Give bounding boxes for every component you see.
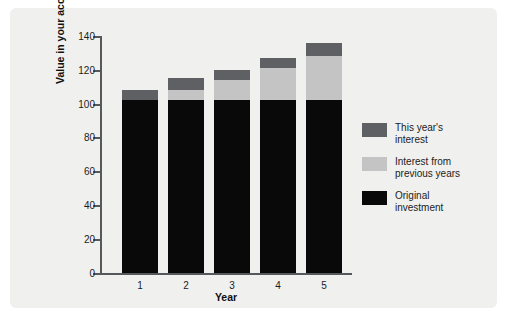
- bar-segment-this-years-interest: [260, 58, 296, 68]
- legend-swatch-icon: [362, 123, 387, 137]
- bar-year-1: [122, 90, 158, 273]
- bar-segment-original-investment: [214, 100, 250, 273]
- y-tick-label: 100: [78, 99, 95, 110]
- y-tick-label: 20: [84, 234, 95, 245]
- bar-segment-previous-interest: [214, 80, 250, 100]
- legend-item-original-investment: Original investment: [362, 190, 492, 213]
- bar-segment-previous-interest: [260, 68, 296, 100]
- y-tick-label: 140: [78, 31, 95, 42]
- bar-segment-this-years-interest: [214, 70, 250, 80]
- y-tick-label: 60: [84, 166, 95, 177]
- x-tick-label-4: 4: [260, 280, 296, 291]
- x-tick-label-2: 2: [168, 280, 204, 291]
- x-tick-label-3: 3: [214, 280, 250, 291]
- plot-area: 0 20 40 60 80 100 120 140: [100, 28, 350, 273]
- bar-segment-this-years-interest: [122, 90, 158, 100]
- x-tick-label-5: 5: [306, 280, 342, 291]
- bar-year-3: [214, 70, 250, 273]
- y-axis-line: [100, 36, 102, 273]
- legend-swatch-icon: [362, 191, 387, 205]
- bar-year-5: [306, 43, 342, 273]
- legend-item-previous-interest: Interest from previous years: [362, 156, 492, 179]
- chart-legend: This year's interest Interest from previ…: [362, 122, 492, 224]
- bar-segment-original-investment: [306, 100, 342, 273]
- y-tick-label: 80: [84, 132, 95, 143]
- x-tick-label-1: 1: [122, 280, 158, 291]
- legend-swatch-icon: [362, 157, 387, 171]
- bar-year-4: [260, 58, 296, 273]
- bar-segment-original-investment: [122, 100, 158, 273]
- y-axis-title-holder: Value in your account, dollars: [62, 28, 78, 273]
- y-axis-title: Value in your account, dollars: [54, 0, 66, 84]
- bar-segment-this-years-interest: [306, 43, 342, 57]
- legend-label: Interest from previous years: [395, 156, 460, 179]
- bar-segment-original-investment: [260, 100, 296, 273]
- y-tick-label: 0: [89, 268, 95, 279]
- bar-segment-previous-interest: [306, 56, 342, 100]
- y-tick-label: 120: [78, 65, 95, 76]
- y-tick-label: 40: [84, 200, 95, 211]
- bar-year-2: [168, 78, 204, 273]
- x-axis-title: Year: [100, 291, 352, 303]
- legend-item-this-years-interest: This year's interest: [362, 122, 492, 145]
- legend-label: This year's interest: [395, 122, 443, 145]
- bar-segment-original-investment: [168, 100, 204, 273]
- bar-segment-previous-interest: [168, 90, 204, 100]
- legend-label: Original investment: [395, 190, 443, 213]
- chart-figure: 0 20 40 60 80 100 120 140: [10, 8, 497, 308]
- x-axis-line: [100, 273, 352, 275]
- bar-segment-this-years-interest: [168, 78, 204, 90]
